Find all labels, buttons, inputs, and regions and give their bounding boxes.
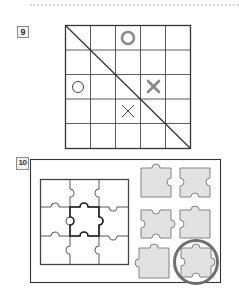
- option-piece-2: [180, 168, 210, 197]
- option-piece-6: [181, 244, 215, 277]
- option-piece-3: [141, 210, 175, 238]
- o-mark-thin: [73, 82, 84, 93]
- jigsaw-board: [41, 180, 129, 265]
- option-piece-1: [141, 164, 171, 197]
- o-mark-bold: [122, 32, 134, 44]
- option-piece-4: [180, 206, 210, 238]
- jigsaw-center-piece-outline: [70, 203, 103, 236]
- option-piece-5: [135, 244, 169, 278]
- x-mark-bold: [148, 81, 159, 92]
- x-mark-thin: [122, 105, 134, 117]
- puzzle-canvas: [0, 0, 239, 302]
- question-10-number: 10: [16, 157, 29, 170]
